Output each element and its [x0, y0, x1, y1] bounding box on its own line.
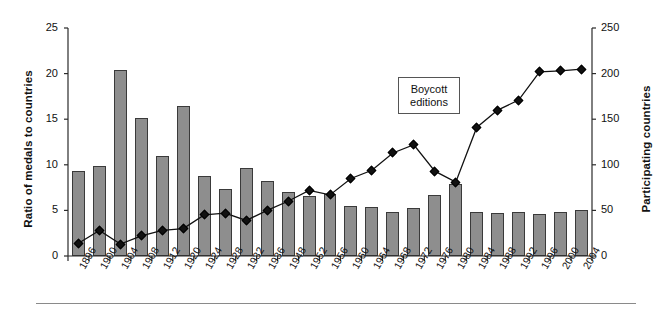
y-tick-right-0: 0 — [601, 249, 631, 261]
olympic-medals-chart: Ratio of medals to countries Participati… — [0, 0, 666, 315]
data-point-1952 — [304, 185, 314, 195]
bar-1980 — [449, 184, 462, 256]
y-tick-left-15: 15 — [28, 112, 58, 124]
y-tick-right-250: 250 — [601, 21, 631, 33]
data-point-2004 — [577, 64, 587, 74]
boycott-annotation: Boycott editions — [398, 77, 460, 114]
y-tick-left-10: 10 — [28, 158, 58, 170]
y-axis-right-title: Participating countries — [640, 69, 652, 229]
data-point-1984 — [472, 122, 482, 132]
bar-1932 — [240, 168, 253, 256]
annotation-line-1: Boycott — [411, 83, 448, 96]
annotation-line-2: editions — [410, 96, 448, 109]
data-point-1996 — [535, 67, 545, 77]
y-tick-right-100: 100 — [601, 158, 631, 170]
data-point-1960 — [346, 174, 356, 184]
data-point-1968 — [388, 148, 398, 158]
y-tick-left-5: 5 — [28, 203, 58, 215]
data-point-1972 — [409, 140, 419, 150]
y-tick-right-200: 200 — [601, 67, 631, 79]
bar-1912 — [156, 156, 169, 256]
bar-1952 — [303, 196, 316, 256]
data-point-1976 — [430, 166, 440, 176]
y-tick-left-25: 25 — [28, 21, 58, 33]
bar-1904 — [114, 70, 127, 256]
bar-1976 — [428, 195, 441, 256]
bar-1936 — [261, 181, 274, 256]
data-point-1964 — [367, 165, 377, 175]
y-tick-left-0: 0 — [28, 249, 58, 261]
data-point-1988 — [493, 105, 503, 115]
data-point-1992 — [514, 95, 524, 105]
bar-1956 — [324, 194, 337, 256]
bar-1928 — [219, 189, 232, 256]
data-point-2000 — [556, 66, 566, 76]
bar-1900 — [93, 166, 106, 256]
footer-rule — [36, 303, 636, 304]
y-tick-right-150: 150 — [601, 112, 631, 124]
y-tick-right-50: 50 — [601, 203, 631, 215]
y-tick-left-20: 20 — [28, 67, 58, 79]
